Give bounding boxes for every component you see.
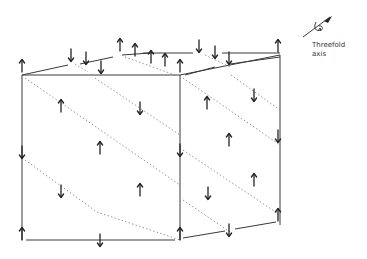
arrow-up-icon	[226, 134, 231, 147]
arrow-up-icon	[162, 54, 167, 67]
arrow-up-icon	[177, 228, 182, 241]
arrow-down-icon	[137, 102, 142, 115]
arrow-up-icon	[19, 60, 24, 73]
dotted-line	[95, 78, 180, 135]
arrow-down-icon	[205, 187, 210, 200]
arrow-down-icon	[19, 146, 24, 159]
arrow-down-icon	[226, 224, 231, 237]
arrow-up-icon	[275, 40, 280, 53]
arrow-down-icon	[196, 40, 201, 53]
arrow-up-icon	[204, 97, 209, 110]
dotted-line	[75, 64, 88, 72]
prism-edges	[22, 53, 280, 240]
arrow-down-icon	[83, 52, 88, 65]
arrow-down-icon	[58, 185, 63, 198]
arrow-up-icon	[58, 100, 63, 113]
prism-edge	[230, 57, 280, 64]
arrow-down-icon	[98, 61, 103, 74]
arrow-up-icon	[251, 174, 256, 187]
arrow-up-icon	[117, 39, 122, 52]
arrow-up-icon	[97, 142, 102, 155]
arrow-up-icon	[177, 60, 182, 73]
prism-edge	[22, 65, 68, 75]
dotted-line	[231, 75, 280, 110]
spin-structure-diagram	[0, 0, 367, 259]
dotted-line	[183, 78, 280, 145]
threefold-axis-icon	[303, 16, 332, 37]
dotted-line	[125, 57, 175, 75]
spin-arrows	[19, 39, 280, 247]
arrow-down-icon	[68, 49, 73, 62]
dotted-line	[97, 212, 180, 240]
dotted-line	[25, 78, 180, 185]
legend-line-2: axis	[312, 50, 345, 59]
dotted-line	[183, 150, 280, 215]
prism-edge	[235, 222, 276, 229]
arrow-down-icon	[212, 46, 217, 59]
dotted-line	[183, 200, 230, 232]
arrow-down-icon	[177, 144, 182, 157]
arrow-up-icon	[148, 51, 153, 64]
legend-line-1: Threefold	[312, 41, 345, 50]
threefold-axis-legend: Threefold axis	[312, 41, 345, 59]
prism-edge	[183, 231, 225, 238]
arrow-up-icon	[137, 184, 142, 197]
dotted-diagonals	[25, 55, 280, 240]
arrow-up-icon	[19, 228, 24, 241]
prism-edge	[185, 67, 215, 75]
